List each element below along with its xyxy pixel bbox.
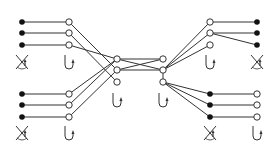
filled-node	[254, 19, 260, 25]
open-node	[254, 91, 260, 97]
filled-node	[207, 114, 213, 120]
open-node	[254, 114, 260, 120]
hook-return-icon	[253, 126, 263, 140]
filled-node	[19, 42, 25, 48]
edge	[163, 82, 210, 105]
edge	[163, 82, 210, 94]
filled-node	[19, 91, 25, 97]
crossed-out-icon	[16, 126, 28, 140]
edge	[69, 33, 117, 82]
open-node	[207, 42, 213, 48]
edge	[163, 33, 210, 70]
open-node	[66, 30, 72, 36]
filled-node	[19, 19, 25, 25]
open-node	[66, 114, 72, 120]
hook-return-icon	[206, 55, 216, 69]
open-node	[114, 67, 120, 73]
filled-node	[207, 102, 213, 108]
open-node	[160, 79, 166, 85]
filled-node	[207, 91, 213, 97]
hook-return-icon	[65, 55, 75, 69]
filled-node	[19, 30, 25, 36]
network-diagram	[0, 0, 273, 156]
edge	[163, 22, 210, 70]
hook-return-icon	[113, 93, 123, 107]
open-node	[66, 19, 72, 25]
edge	[69, 22, 117, 70]
open-node	[66, 42, 72, 48]
hook-return-icon	[159, 93, 169, 107]
edge	[210, 33, 257, 45]
edge	[163, 45, 210, 70]
edge-layer	[22, 22, 257, 117]
crossed-out-icon	[16, 55, 28, 69]
open-node	[160, 56, 166, 62]
hook-return-icon	[65, 126, 75, 140]
open-node	[207, 19, 213, 25]
crossed-out-icon	[251, 55, 263, 69]
crossed-out-icon	[204, 126, 216, 140]
filled-node	[19, 102, 25, 108]
open-node	[254, 102, 260, 108]
open-node	[66, 102, 72, 108]
icon-layer	[16, 55, 263, 140]
open-node	[160, 67, 166, 73]
open-node	[207, 30, 213, 36]
open-node	[66, 91, 72, 97]
filled-node	[254, 30, 260, 36]
open-node	[114, 79, 120, 85]
open-node	[114, 56, 120, 62]
edge	[69, 59, 117, 105]
filled-node	[254, 42, 260, 48]
diagram-canvas	[0, 0, 273, 156]
edge	[163, 82, 210, 117]
filled-node	[19, 114, 25, 120]
